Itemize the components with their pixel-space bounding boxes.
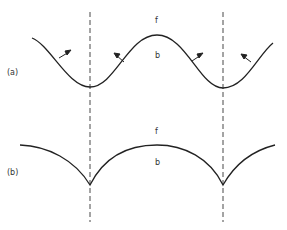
wavy-interface-curve-a bbox=[32, 35, 273, 88]
panel-a-label: (a) bbox=[7, 68, 18, 77]
cusped-interface-curve-b bbox=[20, 145, 275, 185]
normal-arrow-icon bbox=[241, 54, 251, 62]
panel-b-label: (b) bbox=[7, 168, 18, 177]
panel-a-upper-label: f bbox=[155, 16, 158, 25]
diagram-canvas: (a) f b (b) f b bbox=[0, 0, 287, 230]
panel-a-lower-label: b bbox=[155, 51, 160, 60]
normal-arrow-icon bbox=[192, 53, 203, 61]
panel-b-lower-label: b bbox=[155, 158, 160, 167]
panel-b-upper-label: f bbox=[155, 127, 158, 136]
normal-arrow-icon bbox=[59, 50, 71, 58]
normal-arrow-icon bbox=[114, 53, 124, 62]
